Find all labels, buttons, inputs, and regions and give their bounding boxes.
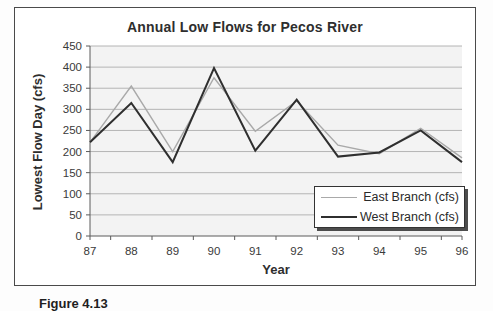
x-tick-label: 95 [414,245,427,257]
x-tick-label: 90 [208,245,221,257]
figure-caption: Figure 4.13 [39,296,108,311]
x-tick-label: 89 [166,245,179,257]
x-tick-label: 88 [125,245,138,257]
x-tick-label: 92 [290,245,303,257]
x-tick-label: 94 [373,245,386,257]
legend-line-swatch [321,216,357,218]
legend-line-swatch [321,197,357,198]
x-tick-label: 96 [456,245,469,257]
y-tick-label: 400 [63,61,82,73]
y-tick-label: 450 [63,40,82,52]
y-tick-label: 250 [63,124,82,136]
y-tick-label: 0 [76,230,82,242]
legend-entry: West Branch (cfs) [319,209,460,226]
y-tick-label: 50 [69,209,82,221]
y-tick-label: 300 [63,103,82,115]
chart-frame: Annual Low Flows for Pecos River Lowest … [14,7,476,286]
chart-svg: 0501001502002503003504004508788899091929… [15,8,473,283]
legend-label: East Branch (cfs) [357,190,460,204]
legend-entry: East Branch (cfs) [319,189,460,206]
legend-label: West Branch (cfs) [357,210,460,224]
x-tick-label: 87 [84,245,97,257]
legend: East Branch (cfs)West Branch (cfs) [314,186,465,228]
x-tick-label: 93 [332,245,345,257]
x-tick-label: 91 [249,245,262,257]
y-tick-label: 200 [63,146,82,158]
y-tick-label: 150 [63,167,82,179]
y-tick-label: 100 [63,188,82,200]
y-tick-label: 350 [63,82,82,94]
